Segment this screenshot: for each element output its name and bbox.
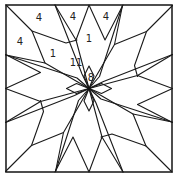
piece-label: 4 [103,11,109,22]
piece-label: 1 [50,48,56,59]
piece-label: 8 [88,72,94,83]
piece-label: 4 [36,12,42,23]
piece-label: 11 [70,57,83,68]
star-quilt-diagram: 4 4 4 4 1 1 11 8 [0,0,177,180]
piece-labels: 4 4 4 4 1 1 11 8 [17,11,109,83]
center-point [87,87,90,90]
piece-label: 1 [86,33,92,44]
piece-label: 4 [17,36,23,47]
piece-label: 4 [70,11,76,22]
